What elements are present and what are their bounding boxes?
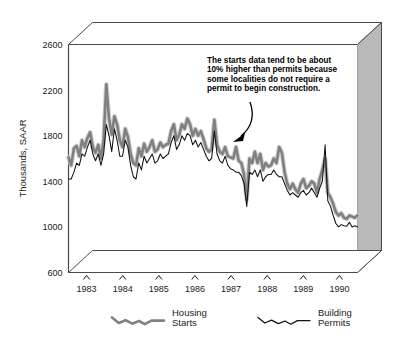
x-tick-labels: 19831984198519861987198819891990 [77,276,350,294]
y-tick-label: 1800 [42,131,62,141]
box-right-face [358,23,382,273]
y-tick-labels: 60010001400180022002600 [42,40,62,278]
x-tick-caret [192,276,198,280]
y-tick-label: 2600 [42,40,62,50]
x-tick-caret [83,276,89,280]
x-tick-caret [300,276,306,280]
x-tick-label: 1988 [257,284,277,294]
y-axis-title: Thousands, SAAR [17,119,28,197]
chart-svg: 60010001400180022002600Thousands, SAAR19… [0,0,411,343]
x-tick-caret [228,276,234,280]
legend-label-building-permits-line2: Permits [318,317,350,328]
x-tick-label: 1990 [329,284,349,294]
y-tick-label: 600 [47,268,62,278]
legend-label-housing-starts-line2: Starts [172,317,197,328]
y-tick-label: 1400 [42,177,62,187]
x-tick-caret [264,276,270,280]
annotation-line: permit to begin construction. [207,84,320,93]
y-tick-label: 1000 [42,222,62,232]
x-tick-label: 1986 [185,284,205,294]
legend-swatch-housing-starts [112,318,164,325]
annotation-line: The starts data tend to be about [207,56,331,65]
x-tick-caret [336,276,342,280]
annotation-line: some localities do not require a [207,75,330,84]
y-tick-label: 2200 [42,86,62,96]
annotation-line: 10% higher than permits because [207,65,338,74]
legend-swatch-building-permits [258,318,310,325]
x-tick-caret [119,276,125,280]
chart-legend: HousingStartsBuildingPermits [112,307,352,328]
x-tick-label: 1987 [221,284,241,294]
x-tick-caret [156,276,162,280]
x-tick-label: 1984 [113,284,133,294]
box-top-face [69,23,382,45]
x-tick-label: 1983 [77,284,97,294]
housing-starts-chart: 60010001400180022002600Thousands, SAAR19… [0,0,411,343]
x-tick-label: 1985 [149,284,169,294]
x-tick-label: 1989 [293,284,313,294]
box-floor-face [69,251,382,273]
y-axis-title-text: Thousands, SAAR [17,119,28,197]
